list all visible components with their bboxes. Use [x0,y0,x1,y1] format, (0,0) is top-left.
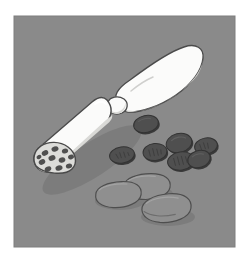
illustration-canvas [0,0,249,263]
illustration-root: Illustration of an opened wrapped food r… [0,0,249,263]
